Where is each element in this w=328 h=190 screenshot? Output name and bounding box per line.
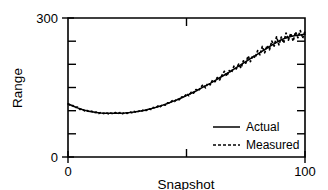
y-axis-title: Range bbox=[10, 68, 25, 108]
x-axis-max-label: 100 bbox=[294, 164, 316, 179]
chart-figure: 300 0 0 100 Range Snapshot Actual Measur… bbox=[0, 0, 328, 190]
chart-background bbox=[0, 0, 328, 190]
x-axis-min-label: 0 bbox=[64, 164, 71, 179]
x-axis-title: Snapshot bbox=[157, 177, 214, 190]
y-axis-min-label: 0 bbox=[51, 150, 58, 165]
legend-label-actual: Actual bbox=[246, 120, 279, 134]
range-vs-snapshot-chart: 300 0 0 100 Range Snapshot Actual Measur… bbox=[0, 0, 328, 190]
legend-label-measured: Measured bbox=[246, 138, 299, 152]
y-axis-max-label: 300 bbox=[36, 11, 58, 26]
